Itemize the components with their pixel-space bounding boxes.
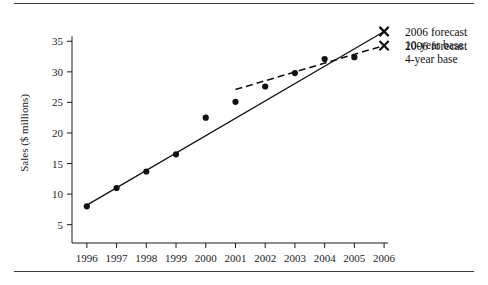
- y-tick-label: 15: [52, 158, 64, 170]
- x-tick-label: 1997: [106, 252, 129, 264]
- y-tick-label: 25: [52, 96, 64, 108]
- x-tick-label: 2001: [224, 252, 246, 264]
- x-tick-label: 2006: [373, 252, 396, 264]
- forecast-marker-10year: [379, 27, 388, 36]
- x-tick-label: 1999: [165, 252, 188, 264]
- y-tick-label: 35: [52, 35, 64, 47]
- data-point: [232, 99, 238, 105]
- x-axis: 1996199719981999200020012002200320042005…: [72, 243, 396, 264]
- x-tick-label: 2004: [314, 252, 337, 264]
- x-tick-label: 2005: [343, 252, 366, 264]
- legend-label-line1: 2006 forecast: [405, 40, 468, 52]
- chart-legend: 2006 forecast10-year base2006 forecast4-…: [405, 26, 468, 66]
- y-axis-title: Sales ($ millions): [18, 94, 31, 172]
- trend-line-10year: [87, 32, 384, 206]
- forecast-marker-4year: [379, 41, 388, 50]
- x-tick-label: 1998: [135, 252, 158, 264]
- y-axis: 5101520253035: [52, 35, 72, 243]
- chart-figure: 5101520253035 19961997199819992000200120…: [0, 0, 488, 285]
- x-tick-label: 2000: [195, 252, 218, 264]
- chart-series: [84, 27, 389, 210]
- data-point: [322, 56, 328, 62]
- y-tick-label: 10: [52, 188, 64, 200]
- x-tick-label: 2002: [254, 252, 276, 264]
- y-tick-label: 30: [52, 66, 64, 78]
- sales-forecast-chart: 5101520253035 19961997199819992000200120…: [0, 0, 488, 285]
- y-tick-label: 5: [58, 219, 64, 231]
- trend-line-4year: [235, 46, 384, 90]
- legend-label-line2: 4-year base: [405, 53, 458, 66]
- y-tick-label: 20: [52, 127, 64, 139]
- data-point: [203, 115, 209, 121]
- legend-label-line1: 2006 forecast: [405, 26, 468, 38]
- y-axis-title-text: Sales ($ millions): [18, 94, 31, 172]
- x-tick-label: 1996: [76, 252, 99, 264]
- data-point: [262, 83, 268, 89]
- x-tick-label: 2003: [284, 252, 307, 264]
